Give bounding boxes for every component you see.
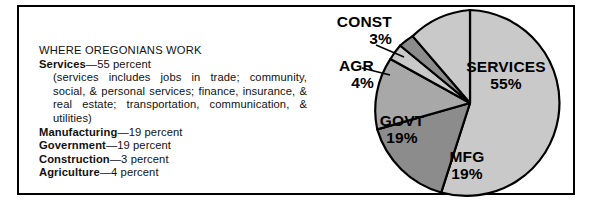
pie-label-mfg-name: MFG <box>436 148 498 165</box>
pie-callout-const-name: CONST <box>308 14 392 31</box>
pie-label-services-name: SERVICES <box>458 58 554 75</box>
legend-item-government-value: —19 percent <box>106 139 171 151</box>
legend-item-manufacturing: Manufacturing—19 percent <box>39 126 307 140</box>
pie-label-govt: GOVT 19% <box>368 112 436 146</box>
legend-item-agriculture-name: Agriculture <box>39 166 100 178</box>
pie-callout-const-pct: 3% <box>308 31 392 48</box>
legend-item-construction-value: —3 percent <box>110 153 169 165</box>
legend-item-services: Services—55 percent <box>39 58 307 72</box>
pie-label-govt-name: GOVT <box>368 112 436 129</box>
legend-item-government: Government—19 percent <box>39 139 307 153</box>
pie-callout-const: CONST 3% <box>308 14 392 47</box>
legend-text-block: WHERE OREGONIANS WORK Services—55 percen… <box>39 44 307 180</box>
pie-label-mfg: MFG 19% <box>436 148 498 182</box>
pie-label-services-pct: 55% <box>458 75 554 92</box>
legend-item-construction: Construction—3 percent <box>39 153 307 167</box>
pie-callout-agr: AGR 4% <box>308 58 374 91</box>
pie-label-govt-pct: 19% <box>368 129 436 146</box>
legend-title: WHERE OREGONIANS WORK <box>39 44 307 58</box>
legend-item-services-value: —55 percent <box>86 58 151 70</box>
legend-item-services-name: Services <box>39 58 86 70</box>
legend-services-note: (services includes jobs in trade; commun… <box>39 71 307 125</box>
legend-item-manufacturing-value: —19 percent <box>117 126 182 138</box>
pie-callout-agr-name: AGR <box>308 58 374 75</box>
pie-chart: CONST 3% AGR 4% SERVICES 55% GOVT 19% MF… <box>300 0 590 209</box>
pie-label-mfg-pct: 19% <box>436 165 498 182</box>
legend-item-agriculture: Agriculture—4 percent <box>39 166 307 180</box>
legend-item-government-name: Government <box>39 139 106 151</box>
legend-item-manufacturing-name: Manufacturing <box>39 126 117 138</box>
pie-callout-agr-pct: 4% <box>308 75 374 92</box>
pie-label-services: SERVICES 55% <box>458 58 554 92</box>
legend-item-agriculture-value: —4 percent <box>100 166 159 178</box>
legend-item-construction-name: Construction <box>39 153 110 165</box>
